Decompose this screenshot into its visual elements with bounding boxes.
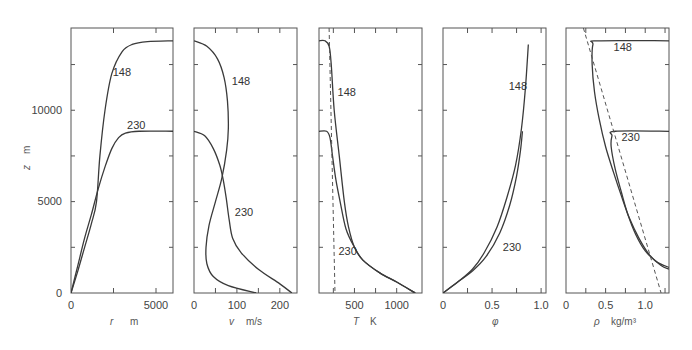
svg-text:ρ: ρ: [593, 316, 600, 327]
x-label-phi: φ: [492, 316, 499, 327]
curve-label: 148: [509, 80, 527, 92]
x-axis-labels: r m v m/s T K φ ρ kg/m³: [110, 316, 637, 327]
svg-text:T: T: [353, 316, 360, 327]
curve-label: 230: [235, 206, 253, 218]
x-tick-label: 1000: [384, 299, 408, 311]
x-tick-label: 0: [440, 299, 446, 311]
y-tick-label: 5000: [38, 195, 62, 207]
svg-text:kg/m³: kg/m³: [611, 316, 637, 327]
panel-r: 05000148230: [68, 28, 173, 311]
svg-text:K: K: [370, 316, 377, 327]
x-label-rho: ρ kg/m³: [593, 316, 637, 327]
curve-label: 148: [232, 75, 250, 87]
plot-frame: [194, 28, 297, 293]
x-tick-label: 0: [191, 299, 197, 311]
x-tick-label: 0.5: [598, 299, 613, 311]
x-tick-label: 500: [345, 299, 363, 311]
svg-text:m: m: [130, 316, 138, 327]
curve-label: 148: [113, 66, 131, 78]
x-tick-label: 100: [228, 299, 246, 311]
y-tick-label: 10000: [31, 104, 62, 116]
y-axis: 0 5000 10000 z m: [21, 104, 62, 299]
reference-line: [583, 28, 661, 293]
y-tick-label: 0: [56, 287, 62, 299]
panel-rho: 00.51.0148230: [563, 28, 669, 311]
plot-frame: [566, 28, 669, 293]
svg-text:φ: φ: [492, 316, 499, 327]
curve-230: [71, 131, 173, 293]
figure: 0 5000 10000 z m 05000148230 01002001482…: [0, 0, 692, 350]
x-tick-label: 5000: [144, 299, 168, 311]
svg-text:z: z: [21, 165, 32, 171]
x-label-T: T K: [353, 316, 377, 327]
x-tick-label: 0: [563, 299, 569, 311]
x-tick-label: 0.5: [484, 299, 499, 311]
panel-T: 5001000148230: [319, 28, 422, 311]
panel-v: 0100200148230: [191, 28, 297, 311]
plot-frame: [443, 28, 546, 293]
curve-230: [610, 131, 669, 267]
curve-label: 230: [127, 119, 145, 131]
curve-label: 230: [338, 245, 356, 257]
curve-230: [443, 131, 522, 293]
y-axis-label: z m: [21, 146, 32, 171]
x-label-v: v m/s: [229, 316, 262, 327]
svg-text:m/s: m/s: [246, 316, 262, 327]
curve-label: 148: [614, 41, 632, 53]
curve-label: 230: [503, 241, 521, 253]
svg-text:m: m: [21, 146, 32, 154]
panel-phi: 00.51.0148230: [440, 28, 549, 311]
svg-text:v: v: [229, 316, 235, 327]
x-tick-label: 1.0: [533, 299, 548, 311]
svg-text:r: r: [110, 316, 114, 327]
x-tick-label: 200: [271, 299, 289, 311]
curve-label: 148: [338, 86, 356, 98]
x-tick-label: 0: [68, 299, 74, 311]
x-label-r: r m: [110, 316, 138, 327]
x-tick-label: 1.0: [638, 299, 653, 311]
curve-148: [591, 41, 669, 270]
curve-148: [71, 41, 173, 293]
curve-label: 230: [621, 131, 639, 143]
